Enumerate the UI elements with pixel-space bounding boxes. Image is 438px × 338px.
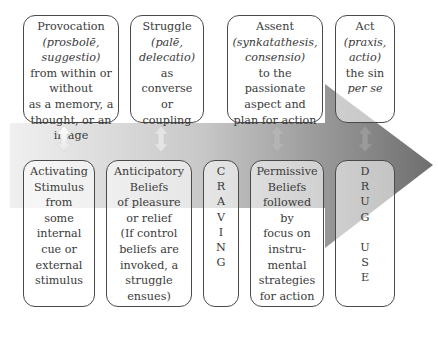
- craving-letter: N: [204, 240, 238, 255]
- provocation-text: image: [24, 128, 118, 144]
- act-box: Act (praxis, actio) the sin per se: [335, 15, 395, 123]
- assent-box: Assent (synkatathesis, consensio) to the…: [227, 15, 323, 123]
- anticipatory-beliefs-box: Anticipatory Beliefs of pleasure or reli…: [106, 160, 192, 307]
- craving-box: C R A V I N G: [203, 160, 239, 307]
- provocation-greek: (prosbolē,: [42, 36, 99, 49]
- anticipatory-beliefs-text: invoked, a: [107, 258, 191, 274]
- double-arrow-icon: [154, 126, 168, 152]
- assent-title: Assent: [228, 19, 322, 35]
- double-arrow-icon: [270, 126, 284, 152]
- drug-use-letter: S: [336, 255, 394, 270]
- assent-text: passionate: [228, 81, 322, 97]
- struggle-latin: delecatio): [139, 51, 195, 64]
- permissive-beliefs-text: instru-: [251, 242, 323, 258]
- craving-letter: I: [204, 225, 238, 240]
- permissive-beliefs-title: Beliefs: [251, 180, 323, 196]
- permissive-beliefs-text: strategies: [251, 273, 323, 289]
- craving-letter: C: [204, 164, 238, 179]
- anticipatory-beliefs-text: beliefs are: [107, 242, 191, 258]
- permissive-beliefs-text: for action: [251, 289, 323, 305]
- drug-use-letter: U: [336, 194, 394, 209]
- drug-use-letter: U: [336, 240, 394, 255]
- provocation-latin: suggestio): [42, 51, 101, 64]
- drug-use-box: D R U G U S E: [335, 160, 395, 307]
- double-arrow-icon: [57, 126, 71, 152]
- struggle-box: Struggle (palē, delecatio) as converse o…: [130, 15, 204, 123]
- act-latin: actio): [349, 51, 381, 64]
- permissive-beliefs-text: by: [251, 211, 323, 227]
- craving-letter: G: [204, 255, 238, 270]
- activating-stimulus-box: Activating Stimulus from some internal c…: [23, 160, 95, 307]
- activating-stimulus-text: cue or: [24, 242, 94, 258]
- craving-letter: R: [204, 179, 238, 194]
- craving-letter: V: [204, 210, 238, 225]
- activating-stimulus-text: from: [24, 195, 94, 211]
- assent-greek: (synkatathesis,: [232, 36, 317, 49]
- activating-stimulus-text: stimulus: [24, 273, 94, 289]
- anticipatory-beliefs-text: ensues): [107, 289, 191, 305]
- activating-stimulus-text: external: [24, 258, 94, 274]
- provocation-box: Provocation (prosbolē, suggestio) from w…: [23, 15, 119, 123]
- activating-stimulus-title: Activating: [24, 164, 94, 180]
- activating-stimulus-text: internal: [24, 226, 94, 242]
- struggle-text: or: [131, 97, 203, 113]
- permissive-beliefs-box: Permissive Beliefs followed by focus on …: [250, 160, 324, 307]
- permissive-beliefs-text: mental: [251, 258, 323, 274]
- drug-use-letter: E: [336, 270, 394, 285]
- anticipatory-beliefs-text: or relief: [107, 211, 191, 227]
- struggle-title: Struggle: [131, 19, 203, 35]
- anticipatory-beliefs-text: (If control: [107, 226, 191, 242]
- anticipatory-beliefs-title: Anticipatory: [107, 164, 191, 180]
- activating-stimulus-title: Stimulus: [24, 180, 94, 196]
- struggle-text: as: [131, 66, 203, 82]
- struggle-text: converse: [131, 81, 203, 97]
- drug-use-letter: D: [336, 164, 394, 179]
- drug-use-letter: R: [336, 179, 394, 194]
- drug-use-spacer: [336, 225, 394, 240]
- activating-stimulus-text: some: [24, 211, 94, 227]
- permissive-beliefs-text: followed: [251, 195, 323, 211]
- assent-text: to the: [228, 66, 322, 82]
- assent-latin: consensio): [245, 51, 305, 64]
- permissive-beliefs-text: focus on: [251, 226, 323, 242]
- anticipatory-beliefs-text: struggle: [107, 273, 191, 289]
- act-greek: (praxis,: [344, 36, 387, 49]
- double-arrow-icon: [358, 126, 372, 152]
- provocation-text: as a memory, a: [24, 97, 118, 113]
- craving-letter: A: [204, 194, 238, 209]
- struggle-greek: (palē,: [151, 36, 183, 49]
- assent-text: aspect and: [228, 97, 322, 113]
- provocation-text: from within or: [24, 66, 118, 82]
- provocation-title: Provocation: [24, 19, 118, 35]
- act-per-se: per se: [347, 82, 382, 95]
- anticipatory-beliefs-title: Beliefs: [107, 180, 191, 196]
- act-title: Act: [336, 19, 394, 35]
- provocation-text: without: [24, 81, 118, 97]
- permissive-beliefs-title: Permissive: [251, 164, 323, 180]
- drug-use-letter: G: [336, 210, 394, 225]
- anticipatory-beliefs-text: of pleasure: [107, 195, 191, 211]
- provocation-text: thought, or an: [24, 113, 118, 129]
- act-text: the sin: [336, 66, 394, 82]
